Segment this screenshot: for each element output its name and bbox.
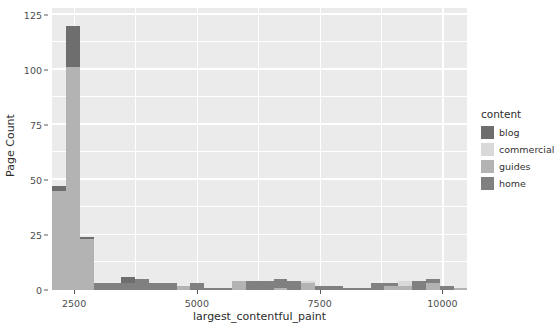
y-tick-mark [44, 179, 48, 180]
gridline-horizontal-major [52, 234, 467, 235]
legend-swatch-commercial [481, 143, 494, 156]
bar-segment-home [107, 283, 121, 290]
legend-items: blogcommercialguideshome [481, 124, 555, 192]
legend-label-guides: guides [499, 161, 531, 172]
bar-segment-home [426, 279, 440, 283]
bar-segment-commercial [301, 281, 315, 283]
gridline-vertical-major [320, 8, 321, 290]
gridline-horizontal-minor [52, 206, 467, 207]
bar-segment-home [163, 283, 177, 290]
chart-figure: Page Count 0255075100125 250050007500100… [0, 0, 557, 332]
bar-segment-blog [80, 237, 94, 239]
legend-label-blog: blog [499, 127, 520, 138]
bar-segment-guides [52, 191, 66, 290]
bar-segment-home [135, 279, 149, 290]
bar-segment-blog [121, 277, 135, 284]
legend-item-blog[interactable]: blog [481, 124, 555, 141]
bar-segment-home [260, 281, 274, 290]
gridline-horizontal-major [52, 68, 467, 69]
x-tick-label: 7500 [308, 298, 332, 309]
y-tick-mark [44, 290, 48, 291]
legend-label-commercial: commercial [499, 144, 554, 155]
x-tick-mark [442, 290, 443, 294]
bar-segment-home [274, 279, 288, 288]
legend-swatch-home [481, 177, 494, 190]
bar-segment-home [371, 283, 385, 290]
gridline-horizontal-major [52, 13, 467, 14]
bar-segment-home [246, 281, 260, 290]
bar-segment-guides [426, 283, 440, 290]
gridline-horizontal-major [52, 123, 467, 124]
x-axis-ticks: 25005000750010000 [52, 290, 467, 312]
y-tick-mark [44, 14, 48, 15]
legend-swatch-guides [481, 160, 494, 173]
bar-segment-home [384, 283, 398, 285]
y-tick-mark [44, 234, 48, 235]
legend-item-home[interactable]: home [481, 175, 555, 192]
legend-item-guides[interactable]: guides [481, 158, 555, 175]
plot-panel [52, 8, 467, 290]
x-tick-mark [320, 290, 321, 294]
gridline-vertical-major [197, 8, 198, 290]
y-tick-label: 75 [30, 119, 42, 130]
x-axis-title: largest_contentful_paint [52, 310, 467, 323]
gridline-horizontal-minor [52, 151, 467, 152]
y-axis-title-text: Page Count [4, 114, 17, 177]
bar-segment-guides [66, 67, 80, 290]
x-tick-mark [197, 290, 198, 294]
bar-segment-home [287, 281, 301, 290]
gridline-vertical-major [442, 8, 443, 290]
y-axis-title: Page Count [2, 0, 18, 290]
gridline-horizontal-major [52, 178, 467, 179]
x-tick-label: 5000 [185, 298, 209, 309]
bar-segment-commercial [398, 281, 412, 285]
x-tick-label: 10000 [427, 298, 457, 309]
bar-segment-home [190, 283, 204, 290]
legend-item-commercial[interactable]: commercial [481, 141, 555, 158]
gridline-vertical-minor [258, 8, 259, 290]
y-tick-label: 0 [36, 285, 42, 296]
bar-segment-guides [232, 281, 246, 290]
legend-title: content [481, 108, 555, 120]
bar-segment-blog [52, 186, 66, 190]
gridline-horizontal-minor [52, 96, 467, 97]
y-tick-label: 125 [24, 9, 42, 20]
y-tick-mark [44, 124, 48, 125]
bar-segment-guides [301, 283, 315, 290]
y-tick-label: 50 [30, 174, 42, 185]
legend-label-home: home [499, 178, 526, 189]
bar-segment-home [412, 281, 426, 290]
clipped-chart-title [52, 0, 467, 1]
y-axis-ticks: 0255075100125 [18, 0, 48, 332]
bar-segment-blog [66, 26, 80, 68]
legend: content blogcommercialguideshome [481, 108, 555, 192]
x-tick-mark [74, 290, 75, 294]
legend-swatch-blog [481, 126, 494, 139]
y-tick-label: 25 [30, 229, 42, 240]
gridline-vertical-minor [135, 8, 136, 290]
bar-segment-home [121, 283, 135, 290]
gridline-horizontal-minor [52, 41, 467, 42]
y-tick-label: 100 [24, 64, 42, 75]
bar-segment-guides [80, 239, 94, 290]
bar-segment-home [94, 283, 108, 290]
x-tick-label: 2500 [62, 298, 86, 309]
y-tick-mark [44, 69, 48, 70]
gridline-horizontal-minor [52, 261, 467, 262]
bar-segment-home [149, 283, 163, 290]
gridline-vertical-minor [381, 8, 382, 290]
